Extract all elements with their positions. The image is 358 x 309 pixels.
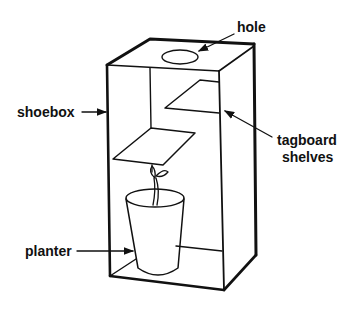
label-hole: hole [237,19,266,35]
shoebox-diagram: hole shoebox tagboard shelves planter [0,0,358,309]
planter-cup [126,189,184,275]
label-shoebox: shoebox [17,104,75,120]
box-top [107,39,254,71]
hole-shape [162,50,198,64]
seedling-icon [151,165,168,205]
label-shelves: shelves [282,149,334,165]
box-walls [107,44,256,290]
label-tagboard: tagboard [277,132,337,148]
upper-shelf [165,80,219,113]
label-planter: planter [25,243,72,259]
lower-shelf [113,128,195,165]
